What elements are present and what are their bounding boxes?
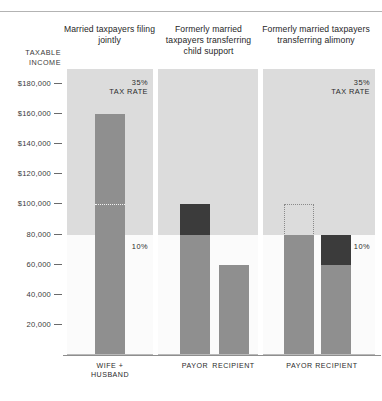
y-tick-mark — [54, 113, 62, 114]
bar-segment-light — [219, 265, 249, 355]
tax-rate-low-label: 10% — [132, 242, 148, 251]
y-tick-label: 80,000 — [27, 230, 51, 239]
y-tick-label: $160,000 — [18, 109, 51, 118]
tax-rate-low-percent: 10% — [132, 242, 148, 251]
y-axis-title-line1: TAXABLE — [4, 48, 61, 58]
x-category-label: WIFE + HUSBAND — [77, 362, 143, 381]
chart-panel — [158, 69, 258, 355]
bar-segment-light — [321, 265, 351, 355]
y-axis-title-line2: INCOME — [4, 58, 61, 68]
tax-rate-low-label: 10% — [354, 242, 370, 251]
y-tick-label: $100,000 — [18, 199, 51, 208]
y-tick: 80,000 — [0, 230, 62, 239]
tax-rate-high-percent: 35% — [331, 78, 370, 87]
y-tick-label: 20,000 — [27, 320, 51, 329]
chart-panel: 35%TAX RATE10% — [67, 69, 153, 355]
y-tick-mark — [54, 234, 62, 235]
tax-rate-high-text: TAX RATE — [331, 87, 370, 96]
y-tick-mark — [54, 173, 62, 174]
x-category-label: RECIPIENT — [201, 362, 267, 371]
y-tick-mark — [54, 203, 62, 204]
bar-segment-light — [284, 235, 314, 355]
y-tick-label: $140,000 — [18, 139, 51, 148]
bar-ghost-outline — [284, 204, 314, 235]
bar-segment-light — [180, 235, 210, 355]
y-tick: $140,000 — [0, 139, 62, 148]
y-tick: 20,000 — [0, 320, 62, 329]
y-tick: $120,000 — [0, 169, 62, 178]
y-tick: 60,000 — [0, 260, 62, 269]
tax-rate-high-text: TAX RATE — [109, 87, 148, 96]
panel-heading-alimony: Formerly married taxpayers transferring … — [262, 24, 370, 46]
bar-segment-dark — [321, 235, 351, 265]
bar-segment-light — [95, 114, 125, 355]
top-divider — [0, 11, 382, 12]
bar-split-marker — [95, 204, 125, 205]
y-tick-mark — [54, 294, 62, 295]
y-tick-mark — [54, 324, 62, 325]
y-tick-mark — [54, 83, 62, 84]
bar-segment-dark — [180, 204, 210, 234]
y-tick: $160,000 — [0, 109, 62, 118]
y-tick-label: $120,000 — [18, 169, 51, 178]
y-tick-label: 60,000 — [27, 260, 51, 269]
y-tick-mark — [54, 264, 62, 265]
y-tick-label: 40,000 — [27, 290, 51, 299]
chart-panel: 35%TAX RATE10% — [263, 69, 375, 355]
y-axis-title: TAXABLE INCOME — [4, 48, 61, 67]
y-tick: 40,000 — [0, 290, 62, 299]
chart-root: Married taxpayers filing jointly Formerl… — [0, 0, 382, 401]
tax-rate-high-label: 35%TAX RATE — [109, 78, 148, 97]
y-tick: $100,000 — [0, 199, 62, 208]
panel-heading-married-filing-jointly: Married taxpayers filing jointly — [62, 24, 157, 46]
x-axis-baseline — [63, 355, 381, 356]
tax-rate-low-percent: 10% — [354, 242, 370, 251]
tax-rate-high-percent: 35% — [109, 78, 148, 87]
panel-heading-child-support: Formerly married taxpayers transferring … — [157, 24, 260, 58]
y-tick-mark — [54, 143, 62, 144]
tax-rate-high-label: 35%TAX RATE — [331, 78, 370, 97]
x-category-label: RECIPIENT — [303, 362, 369, 371]
y-tick-label: $180,000 — [18, 79, 51, 88]
y-tick: $180,000 — [0, 79, 62, 88]
